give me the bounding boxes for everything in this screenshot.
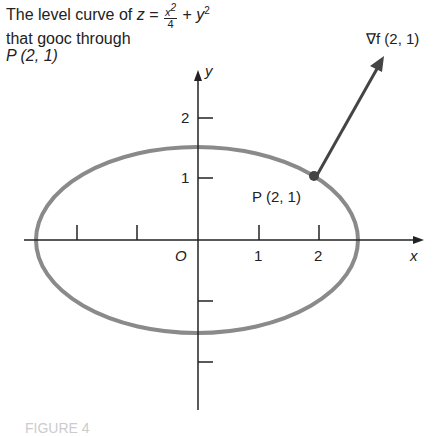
x-axis-label: x	[410, 247, 418, 264]
frac-exp: 2	[170, 2, 176, 13]
origin-label: O	[175, 247, 187, 264]
title-text: The level curve of	[6, 6, 137, 23]
title-equals: =	[145, 6, 163, 23]
x-tick-label-2: 2	[314, 247, 322, 264]
y-axis-label: y	[205, 62, 213, 79]
x-tick-label-1: 1	[254, 247, 262, 264]
y-tick-label-1: 1	[181, 169, 189, 186]
title-line3: P (2, 1)	[6, 47, 210, 64]
title-y-exp: 2	[204, 5, 210, 16]
point-label: P (2, 1)	[252, 188, 301, 205]
diagram-title: The level curve of z = x24 + y2 that goo…	[6, 2, 210, 64]
title-plus: +	[178, 6, 196, 23]
title-z: z	[137, 6, 145, 23]
x-axis-arrow-icon	[413, 236, 424, 244]
point-p	[309, 171, 319, 181]
gradient-vector	[316, 67, 378, 177]
y-tick-label-2: 2	[181, 109, 189, 126]
figure-caption: FIGURE 4	[25, 420, 90, 436]
y-axis-arrow-icon	[194, 70, 202, 81]
frac-den: 4	[164, 19, 177, 30]
title-line2: that gooc through	[6, 30, 210, 47]
gradient-label: ∇f (2, 1)	[366, 30, 419, 48]
fraction: x24	[164, 2, 177, 30]
